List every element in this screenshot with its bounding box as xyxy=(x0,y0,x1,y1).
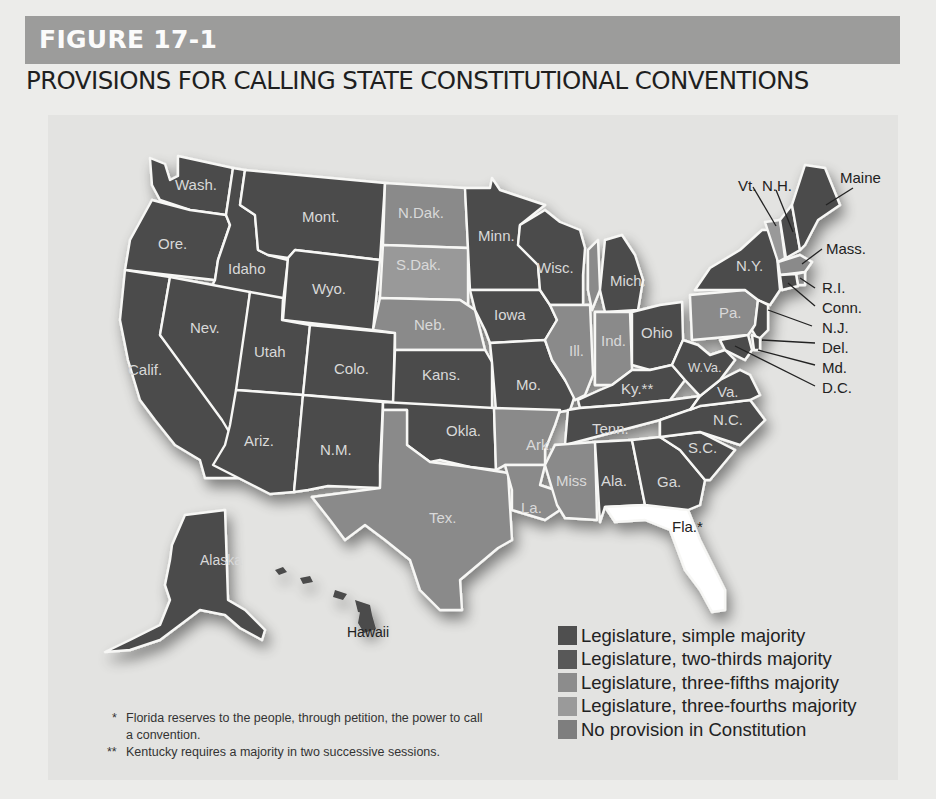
label-sc: S.C. xyxy=(688,439,717,456)
label-ga: Ga. xyxy=(657,473,681,490)
label-del: Del. xyxy=(822,339,849,356)
label-wisc: Wisc. xyxy=(537,259,574,276)
footnote-marker: ** xyxy=(107,744,117,761)
label-wyo: Wyo. xyxy=(312,280,346,297)
legend-label: Legislature, simple majority xyxy=(581,625,805,647)
label-mich: Mich. xyxy=(610,272,646,289)
label-ohio: Ohio xyxy=(641,324,673,341)
label-nm: N.M. xyxy=(320,441,352,458)
state-maine xyxy=(792,165,840,250)
label-mo: Mo. xyxy=(516,376,541,393)
legend-swatch xyxy=(558,720,577,739)
label-calif: Calif. xyxy=(128,361,162,378)
label-vt: Vt. xyxy=(738,177,756,194)
label-miss: Miss xyxy=(556,472,587,489)
footnote-kentucky: ** Kentucky requires a majority in two s… xyxy=(112,744,486,761)
label-neb: Neb. xyxy=(414,316,446,333)
legend-label: No provision in Constitution xyxy=(581,719,806,741)
label-ill: Ill. xyxy=(569,342,584,359)
label-minn: Minn. xyxy=(478,227,515,244)
legend-item-three-fourths: Legislature, three-fourths majority xyxy=(558,695,857,719)
label-hawaii: Hawaii xyxy=(347,624,389,640)
label-ark: Ark. xyxy=(526,436,553,453)
label-utah: Utah xyxy=(254,343,286,360)
label-pa: Pa. xyxy=(719,304,742,321)
label-ore: Ore. xyxy=(158,235,187,252)
legend-swatch xyxy=(558,673,577,692)
label-nh: N.H. xyxy=(762,177,792,194)
legend-item-three-fifths: Legislature, three-fifths majority xyxy=(558,671,857,695)
label-maine: Maine xyxy=(840,169,881,186)
legend-item-no-provision: No provision in Constitution xyxy=(558,718,857,742)
legend-label: Legislature, two-thirds majority xyxy=(581,648,832,670)
legend-label: Legislature, three-fourths majority xyxy=(581,695,857,717)
map-legend: Legislature, simple majority Legislature… xyxy=(558,624,857,742)
label-ri: R.I. xyxy=(822,279,845,296)
legend-swatch xyxy=(558,650,577,669)
legend-swatch xyxy=(558,626,577,645)
label-la: La. xyxy=(521,499,542,516)
label-ny: N.Y. xyxy=(736,257,763,274)
label-wva: W.Va. xyxy=(688,360,722,375)
label-wash: Wash. xyxy=(175,176,217,193)
footnote-marker: * xyxy=(112,710,117,727)
legend-label: Legislature, three-fifths majority xyxy=(581,672,839,694)
label-nc: N.C. xyxy=(713,411,743,428)
legend-item-two-thirds: Legislature, two-thirds majority xyxy=(558,648,857,672)
label-idaho: Idaho xyxy=(228,260,266,277)
label-dc: D.C. xyxy=(822,379,852,396)
label-ariz: Ariz. xyxy=(244,432,274,449)
label-va: Va. xyxy=(717,383,738,400)
label-mont: Mont. xyxy=(302,208,340,225)
label-sdak: S.Dak. xyxy=(396,256,441,273)
label-alaska: Alaska xyxy=(200,552,242,568)
state-fla xyxy=(605,505,725,612)
footnote-text: Kentucky requires a majority in two succ… xyxy=(126,745,440,759)
label-kans: Kans. xyxy=(422,366,460,383)
label-colo: Colo. xyxy=(334,360,369,377)
label-okla: Okla. xyxy=(446,422,481,439)
label-ky: Ky.** xyxy=(621,380,653,397)
state-del xyxy=(752,335,760,350)
label-conn: Conn. xyxy=(822,299,862,316)
label-md: Md. xyxy=(822,359,847,376)
label-fla: Fla.* xyxy=(672,518,703,535)
legend-swatch xyxy=(558,697,577,716)
label-nj: N.J. xyxy=(822,319,849,336)
label-ind: Ind. xyxy=(601,332,626,349)
state-conn xyxy=(780,274,798,290)
state-lake-mi xyxy=(588,240,600,310)
label-mass: Mass. xyxy=(826,240,866,257)
label-iowa: Iowa xyxy=(494,306,526,323)
label-ala: Ala. xyxy=(601,472,627,489)
label-tenn: Tenn. xyxy=(592,420,629,437)
footnote-florida: * Florida reserves to the people, throug… xyxy=(112,710,486,744)
legend-item-simple-majority: Legislature, simple majority xyxy=(558,624,857,648)
state-sdak xyxy=(380,245,468,305)
label-ndak: N.Dak. xyxy=(398,204,444,221)
label-nev: Nev. xyxy=(190,319,220,336)
state-alaska xyxy=(105,510,265,652)
footnotes: * Florida reserves to the people, throug… xyxy=(112,710,486,761)
label-tex: Tex. xyxy=(429,509,457,526)
footnote-text: Florida reserves to the people, through … xyxy=(126,710,486,744)
